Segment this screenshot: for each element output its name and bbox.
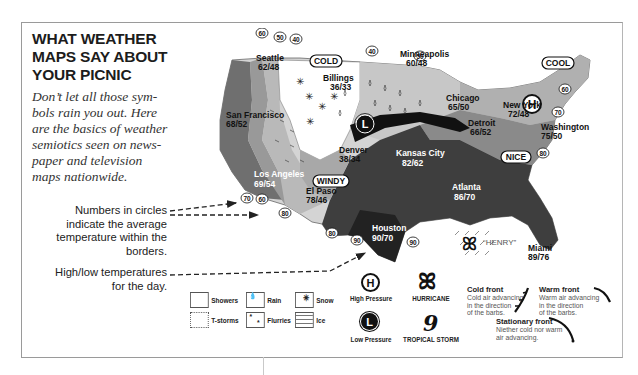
stationary-front-icon	[549, 318, 573, 340]
warm-front-icon	[594, 288, 610, 302]
front-symbols	[0, 0, 638, 375]
column-divider	[263, 357, 264, 375]
